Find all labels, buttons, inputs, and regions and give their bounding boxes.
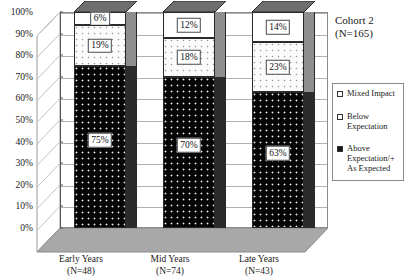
value-label-mixed: 12%: [177, 18, 201, 33]
legend-swatch-above-expectation: [337, 146, 343, 152]
category-count: (N=74): [127, 266, 213, 278]
legend-label-above-expectation: Above Expectation/+ As Expected: [347, 144, 395, 173]
legend-label-mixed-impact: Mixed Impact: [347, 89, 395, 99]
legend-swatch-mixed-impact: [337, 91, 343, 97]
legend-item-mixed-impact[interactable]: Mixed Impact: [336, 89, 400, 99]
legend-label-below-expectation: Below Expectation: [347, 112, 388, 132]
legend-label-line2: Expectation: [347, 121, 388, 131]
segment-above-expectation-side: [126, 66, 137, 228]
legend-label-line1: Above: [347, 143, 370, 153]
bar-early-years[interactable]: 6% 19% 75%: [74, 12, 126, 228]
legend-label-line1: Below: [347, 111, 369, 121]
segment-above-expectation[interactable]: [163, 77, 215, 228]
stacked-column-chart: 100% 90% 80% 70% 60% 50% 40% 30% 20% 10%…: [0, 0, 406, 280]
category-name: Late Years: [216, 254, 302, 266]
value-label-above: 70%: [177, 138, 201, 153]
segment-below-expectation-side: [126, 25, 137, 66]
value-label-above: 75%: [88, 133, 112, 148]
category-name: Early Years: [38, 254, 124, 266]
category-count: (N=43): [216, 266, 302, 278]
legend-label-line3: As Expected: [347, 163, 390, 173]
segment-below-expectation-side: [304, 42, 315, 92]
value-label-below: 19%: [88, 38, 112, 53]
chart-title-line2: (N=165): [335, 27, 374, 40]
segment-above-expectation-side: [304, 92, 315, 228]
x-axis-label-mid-years: Mid Years (N=74): [127, 254, 213, 277]
value-label-below: 18%: [177, 50, 201, 65]
segment-mixed-impact-side: [126, 12, 137, 25]
segment-mixed-impact-side: [304, 12, 315, 42]
segment-below-expectation-side: [215, 38, 226, 77]
value-label-below: 23%: [266, 60, 290, 75]
bar-late-years[interactable]: 14% 23% 63%: [252, 12, 304, 228]
segment-above-expectation-side: [215, 77, 226, 228]
chart-title-line1: Cohort 2: [335, 14, 374, 27]
bar-mid-years[interactable]: 12% 18% 70%: [163, 12, 215, 228]
category-name: Mid Years: [127, 254, 213, 266]
x-axis-label-early-years: Early Years (N=48): [38, 254, 124, 277]
value-label-above: 63%: [266, 146, 290, 161]
legend-item-above-expectation[interactable]: Above Expectation/+ As Expected: [336, 144, 400, 173]
x-axis-label-late-years: Late Years (N=43): [216, 254, 302, 277]
category-count: (N=48): [38, 266, 124, 278]
legend-swatch-below-expectation: [337, 114, 343, 120]
segment-mixed-impact-side: [215, 12, 226, 38]
value-label-mixed: 14%: [266, 20, 290, 35]
value-label-mixed: 6%: [90, 11, 110, 26]
legend-label-line2: Expectation/+: [347, 153, 395, 163]
chart-legend: Mixed Impact Below Expectation Above Exp…: [332, 83, 404, 181]
legend-item-below-expectation[interactable]: Below Expectation: [336, 112, 400, 132]
chart-title: Cohort 2 (N=165): [335, 14, 374, 40]
